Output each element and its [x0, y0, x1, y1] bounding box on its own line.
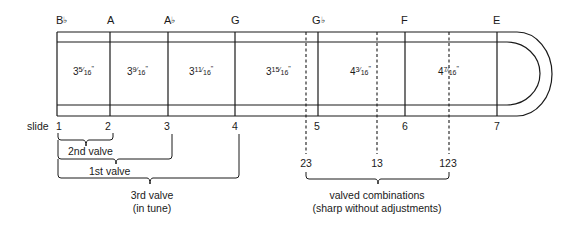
inner-bend	[497, 42, 540, 105]
slide-position-6: 6	[402, 120, 408, 132]
combo-label-13: 13	[371, 157, 383, 169]
trombone-slide-diagram: B♭ A A♭ G G♭ F E 35⁄16" 39⁄16" 311⁄16" 3…	[0, 0, 578, 225]
slide-positions: slide 1 2 3 4 5 6 7	[27, 120, 500, 132]
slide-position-7: 7	[494, 120, 500, 132]
slide-position-5: 5	[314, 120, 320, 132]
note-label-f: F	[401, 14, 408, 26]
valve-braces: 2nd valve 1st valve 3rd valve (in tune)	[58, 133, 239, 214]
slide-position-4: 4	[232, 120, 238, 132]
second-valve-label: 2nd valve	[68, 145, 113, 157]
segment-length-4: 315⁄16"	[266, 65, 291, 77]
segment-length-1: 35⁄16"	[73, 65, 94, 77]
segment-length-2: 39⁄16"	[127, 65, 148, 77]
note-label-a: A	[107, 14, 115, 26]
third-valve-label: 3rd valve	[131, 189, 174, 201]
valve-combinations: 23 13 123 valved combinations (sharp wit…	[300, 157, 457, 214]
slide-position-1: 1	[56, 120, 62, 132]
slide-label: slide	[27, 120, 49, 132]
slide-position-3: 3	[164, 120, 170, 132]
combinations-brace	[306, 172, 449, 184]
combo-label-23: 23	[300, 157, 312, 169]
segment-length-3: 311⁄16"	[189, 65, 214, 77]
third-valve-sublabel: (in tune)	[133, 202, 172, 214]
segment-lengths: 35⁄16" 39⁄16" 311⁄16" 315⁄16" 43⁄16" 47⁄…	[73, 65, 459, 77]
slide-tube	[57, 32, 552, 154]
slide-position-2: 2	[105, 120, 111, 132]
note-labels: B♭ A A♭ G G♭ F E	[56, 14, 500, 26]
first-valve-label: 1st valve	[89, 165, 131, 177]
combinations-subcaption: (sharp without adjustments)	[313, 202, 442, 214]
note-label-g-flat: G♭	[312, 14, 325, 26]
combinations-caption: valved combinations	[329, 189, 424, 201]
note-label-b-flat: B♭	[56, 14, 67, 26]
note-label-e: E	[493, 14, 500, 26]
note-label-g: G	[231, 14, 240, 26]
segment-length-5: 43⁄16"	[350, 65, 371, 77]
combo-label-123: 123	[439, 157, 457, 169]
outer-bend	[517, 32, 552, 116]
note-label-a-flat: A♭	[164, 14, 175, 26]
